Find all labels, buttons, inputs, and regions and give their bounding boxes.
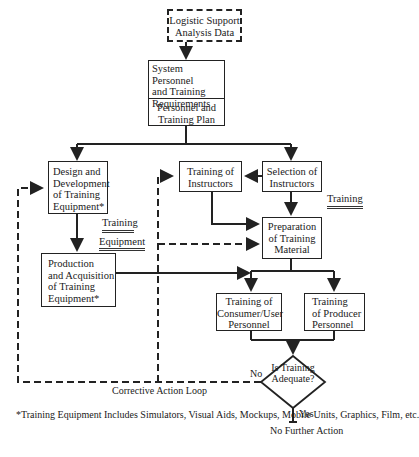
box-line: Production xyxy=(48,258,115,270)
end-line: Action xyxy=(316,425,343,436)
selection-instructors-box: Selection of Instructors xyxy=(262,161,322,192)
decision-line: Is xyxy=(271,362,278,373)
box-line: Personnel xyxy=(312,319,364,331)
end-label: No Further Action xyxy=(270,425,320,437)
box-line: Development xyxy=(53,178,107,190)
personnel-plan-section: Personnel and Training Plan xyxy=(149,98,224,125)
label-line: Equipment xyxy=(99,236,145,252)
box-line: Personnel and xyxy=(149,102,224,114)
label-line: Training xyxy=(102,217,134,233)
box-line: of Training xyxy=(263,233,321,245)
lsa-data-box: Logistic Support Analysis Data xyxy=(167,9,242,42)
box-line: Consumer/User xyxy=(217,308,281,320)
box-line: Training xyxy=(312,296,364,308)
box-line: Design and xyxy=(53,166,107,178)
decision-line: Adequate? xyxy=(272,373,315,384)
box-line: System Personnel xyxy=(152,63,224,86)
section-label-training-equipment: Training Equipment xyxy=(99,217,145,251)
box-line: Training of xyxy=(217,296,281,308)
preparation-material-box: Preparation of Training Material xyxy=(262,217,322,259)
box-line: Equipment* xyxy=(48,293,115,305)
decision-line: Training xyxy=(281,362,315,373)
design-equipment-box: Design and Development of Training Equip… xyxy=(48,161,108,214)
box-line: Personnel xyxy=(217,319,281,331)
box-line: Analysis Data xyxy=(169,27,240,39)
training-instructors-box: Training of Instructors xyxy=(179,161,242,192)
consumer-training-box: Training of Consumer/User Personnel xyxy=(216,293,282,331)
footnote-line: *Training Equipment Includes Simulators,… xyxy=(16,409,280,420)
box-line: and Acquisition xyxy=(48,270,115,282)
box-line: of Training xyxy=(48,281,115,293)
end-line: No Further xyxy=(270,425,314,436)
box-line: Instructors xyxy=(263,178,321,190)
box-line: and Training xyxy=(152,86,224,98)
corrective-loop-label: Corrective Action Loop xyxy=(112,385,207,397)
box-line: Material xyxy=(263,244,321,256)
no-label: No xyxy=(250,368,262,380)
producer-training-box: Training of Producer Personnel xyxy=(304,293,365,331)
box-line: Training of xyxy=(180,166,241,178)
box-line: Instructors xyxy=(180,178,241,190)
box-line: of Training xyxy=(53,189,107,201)
footnote: *Training Equipment Includes Simulators,… xyxy=(16,409,419,420)
box-line: Training Plan xyxy=(149,114,224,126)
box-line: Preparation xyxy=(263,221,321,233)
decision-text: Is Training Adequate? xyxy=(268,362,318,384)
box-line: Equipment* xyxy=(53,201,107,213)
box-line: of Producer xyxy=(312,308,364,320)
section-label-training: Training xyxy=(327,193,363,209)
system-personnel-box: System Personnel and Training Requiremen… xyxy=(148,60,225,126)
production-equipment-box: Production and Acquisition of Training E… xyxy=(41,253,116,307)
box-line: Selection of xyxy=(263,166,321,178)
footnote-line: Mobile Units, Graphics, Film, etc. xyxy=(282,409,419,420)
box-line: Logistic Support xyxy=(169,15,240,27)
